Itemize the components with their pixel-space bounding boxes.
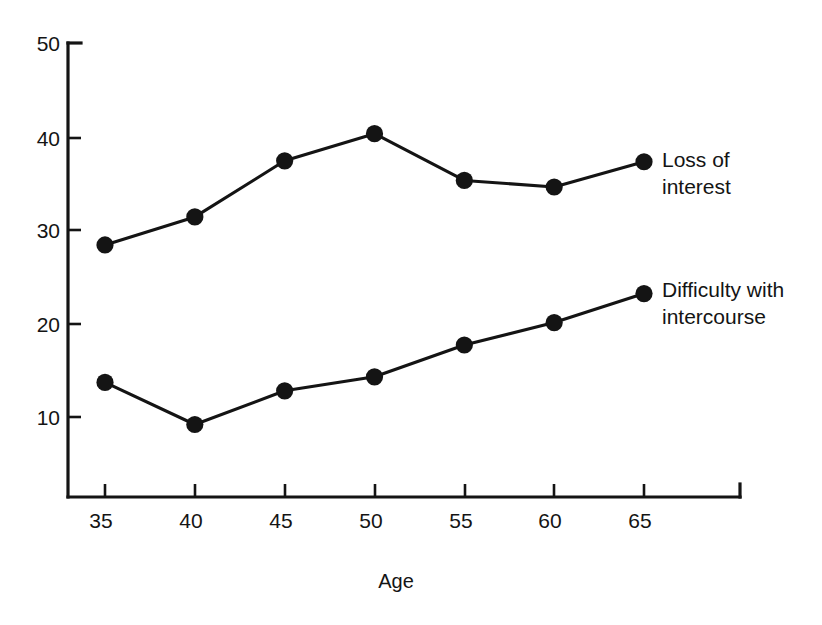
series-label-loss-of-interest-line1: Loss of [662,148,730,171]
chart-figure: 50 40 30 20 10 35 40 45 50 55 60 65 Age … [0,0,822,625]
x-tick-label-50: 50 [359,509,382,532]
x-axis-title: Age [378,570,414,592]
data-point [456,172,473,189]
data-point [456,336,473,353]
data-point [186,208,203,225]
y-tick-label-20: 20 [37,313,60,336]
data-point [635,153,652,170]
data-point [276,382,293,399]
data-point [546,178,563,195]
x-tick-label-55: 55 [449,509,472,532]
x-tick-label-60: 60 [538,509,561,532]
series-label-difficulty-line2: intercourse [662,305,766,328]
data-point [366,125,383,142]
y-tick-label-50: 50 [37,32,60,55]
series-label-difficulty-line1: Difficulty with [662,278,784,301]
data-point [366,368,383,385]
data-point [96,374,113,391]
x-tick-label-45: 45 [269,509,292,532]
line-chart-svg: 50 40 30 20 10 35 40 45 50 55 60 65 Age … [0,0,822,625]
data-point [276,152,293,169]
y-tick-label-40: 40 [37,127,60,150]
data-point [546,314,563,331]
data-point [96,236,113,253]
x-tick-label-35: 35 [89,509,112,532]
data-point [635,285,652,302]
y-tick-label-30: 30 [37,219,60,242]
data-point [186,416,203,433]
series-label-loss-of-interest-line2: interest [662,175,731,198]
y-tick-label-10: 10 [37,406,60,429]
x-tick-label-65: 65 [628,509,651,532]
x-tick-label-40: 40 [179,509,202,532]
